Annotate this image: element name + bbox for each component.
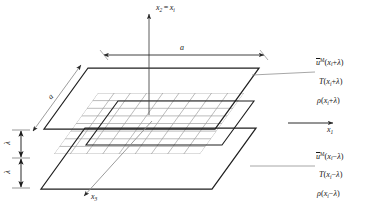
figure-canvas: x2=xi x1 x3 a a λ λ uM(xi+λ) T(xi+λ) ρ(x… bbox=[0, 0, 384, 210]
vertical-axis-equals: = bbox=[164, 3, 169, 12]
depth-axis-label: x3 bbox=[91, 193, 97, 202]
lambda-upper-label: λ bbox=[4, 141, 12, 144]
upper-plane-velocity-label: uM(xi+λ) bbox=[316, 58, 343, 68]
vertical-axis-label: x2=xi bbox=[156, 4, 175, 13]
lower-velocity-base: u bbox=[316, 153, 320, 161]
upper-plane-temperature-label: T(xi+λ) bbox=[319, 78, 342, 87]
lower-plane-velocity-label: uM(xi−λ) bbox=[316, 152, 343, 162]
vertical-axis-sub: 2 bbox=[160, 7, 163, 13]
depth-axis-sub: 3 bbox=[95, 196, 98, 202]
vertical-axis-alt-sub: i bbox=[173, 7, 175, 13]
lower-plane-temperature-label: T(xi−λ) bbox=[319, 171, 342, 180]
upper-velocity-paren-close: ) bbox=[341, 58, 344, 67]
horizontal-axis-label: x1 bbox=[327, 126, 333, 135]
lower-plane-outline bbox=[41, 128, 256, 189]
upper-density-paren-close: ) bbox=[337, 96, 340, 105]
lower-plane-density-label: ρ(xi−λ) bbox=[317, 190, 340, 199]
lower-temperature-paren-close: ) bbox=[340, 170, 343, 179]
lambda-lower-label: λ bbox=[4, 170, 12, 173]
upper-temperature-paren-close: ) bbox=[340, 77, 343, 86]
upper-plane-outline bbox=[44, 68, 259, 129]
lower-velocity-paren-close: ) bbox=[341, 152, 344, 161]
lower-density-paren-close: ) bbox=[337, 189, 340, 198]
horizontal-axis-sub: 1 bbox=[331, 129, 334, 135]
inner-plane-outline bbox=[86, 101, 254, 145]
upper-plane-density-label: ρ(xi+λ) bbox=[317, 97, 340, 106]
depth-dimension-line bbox=[33, 65, 81, 131]
leader-line-upper bbox=[252, 72, 315, 75]
upper-velocity-base: u bbox=[316, 59, 320, 67]
width-dimension-label: a bbox=[180, 44, 184, 52]
